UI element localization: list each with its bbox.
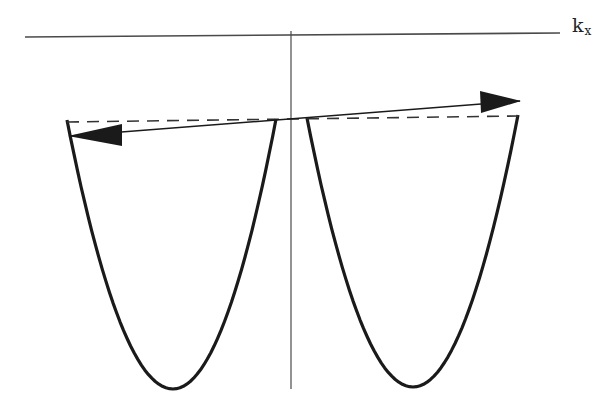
axis-label-main: k [572,14,585,36]
axis-label-subscript: x [585,24,593,38]
kx-axis-label: kx [572,14,592,38]
dispersion-diagram [0,0,611,401]
background [0,0,611,401]
